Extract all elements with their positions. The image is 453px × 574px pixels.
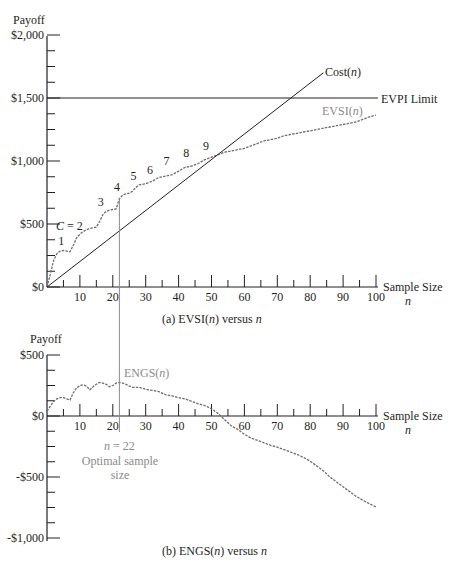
evsi-label: EVSI(n) xyxy=(322,104,363,118)
chart-a-y-axis: $0$500$1,000$1,500$2,000 xyxy=(11,28,60,294)
chart-b-y-axis: -$1,000-$500$0$500 xyxy=(7,348,60,545)
optimal-sample-label-line2: size xyxy=(111,468,130,482)
chart-b-caption: (b) ENGS(n) versus n xyxy=(162,544,267,558)
cost-n-line xyxy=(47,73,323,287)
curve-segment-label: 1 xyxy=(58,234,64,248)
curve-segment-label: 9 xyxy=(203,139,209,153)
x-tick-label: 20 xyxy=(107,290,119,304)
x-tick-label: 10 xyxy=(74,290,86,304)
y-tick-label: $1,000 xyxy=(11,154,44,168)
evsi-engs-figure: Payoff $0$500$1,000$1,500$2,000 10203040… xyxy=(0,0,453,574)
optimal-sample-label-line1: Optimal sample xyxy=(82,454,158,468)
c-equals-label: C = 2 xyxy=(56,219,83,233)
chart-a-x-axis-label: Sample Size xyxy=(383,280,443,294)
y-tick-label: $1,500 xyxy=(11,91,44,105)
curve-segment-label: 3 xyxy=(98,195,104,209)
curve-segment-label: 8 xyxy=(183,146,189,160)
chart-a-x-axis: 102030405060708090100 xyxy=(47,275,385,304)
evsi-n-line xyxy=(47,115,376,287)
x-tick-label: 70 xyxy=(271,290,283,304)
x-tick-label: 70 xyxy=(271,419,283,433)
y-tick-label: $0 xyxy=(32,409,44,423)
x-tick-label: 50 xyxy=(206,290,218,304)
x-tick-label: 80 xyxy=(304,419,316,433)
chart-a-x-axis-var: n xyxy=(405,294,411,308)
engs-label: ENGS(n) xyxy=(124,366,169,380)
chart-b-x-axis-var: n xyxy=(405,423,411,437)
chart-b-x-axis-label: Sample Size xyxy=(383,409,443,423)
x-tick-label: 90 xyxy=(337,290,349,304)
x-tick-label: 90 xyxy=(337,419,349,433)
x-tick-label: 10 xyxy=(74,419,86,433)
curve-segment-label: 6 xyxy=(147,163,153,177)
y-tick-label: $2,000 xyxy=(11,28,44,42)
engs-n-line xyxy=(47,382,376,507)
curve-segment-label: 5 xyxy=(131,169,137,183)
x-tick-label: 30 xyxy=(140,290,152,304)
cost-label: Cost(n) xyxy=(325,65,361,79)
chart-b: Payoff -$1,000-$500$0$500 10203040506070… xyxy=(7,332,443,558)
x-tick-label: 40 xyxy=(173,290,185,304)
x-tick-label: 40 xyxy=(173,419,185,433)
chart-a: Payoff $0$500$1,000$1,500$2,000 10203040… xyxy=(11,13,443,326)
y-tick-label: -$1,000 xyxy=(7,531,44,545)
curve-segment-label: 7 xyxy=(163,154,169,168)
x-tick-label: 50 xyxy=(206,419,218,433)
chart-a-y-axis-label: Payoff xyxy=(13,13,45,27)
evpi-limit-label: EVPI Limit xyxy=(381,92,438,106)
chart-b-y-axis-label: Payoff xyxy=(30,332,62,346)
y-tick-label: -$500 xyxy=(16,470,44,484)
chart-a-caption: (a) EVSI(n) versus n xyxy=(162,312,262,326)
chart-b-x-axis: 102030405060708090100 xyxy=(47,404,385,433)
y-tick-label: $0 xyxy=(32,280,44,294)
optimal-n-label: n = 22 xyxy=(104,439,135,453)
curve-segment-label: 4 xyxy=(114,180,120,194)
y-tick-label: $500 xyxy=(20,217,44,231)
chart-b-series xyxy=(47,382,376,507)
x-tick-label: 60 xyxy=(238,290,250,304)
y-tick-label: $500 xyxy=(20,348,44,362)
x-tick-label: 20 xyxy=(107,419,119,433)
x-tick-label: 80 xyxy=(304,290,316,304)
x-tick-label: 30 xyxy=(140,419,152,433)
